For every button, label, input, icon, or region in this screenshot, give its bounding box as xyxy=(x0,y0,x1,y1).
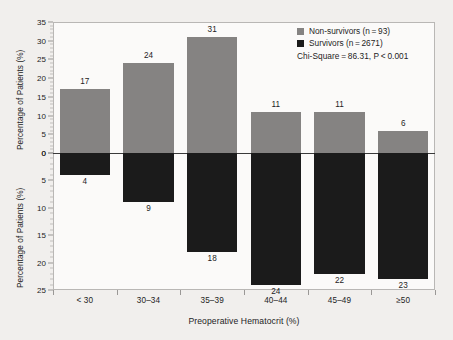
y-tick-minor xyxy=(50,145,53,146)
y-tick-minor xyxy=(50,111,53,112)
x-tick-label: 40–44 xyxy=(246,296,306,305)
chart-figure: Percentage of Patients (%) Percentage of… xyxy=(0,0,453,340)
legend-label-non-survivors: Non-survivors (n = 93) xyxy=(309,26,390,36)
bar-non-survivors[interactable] xyxy=(378,131,428,153)
y-tick-minor xyxy=(50,251,53,252)
y-tick-major xyxy=(48,115,53,116)
bar-non-survivors[interactable] xyxy=(314,112,364,153)
y-tick-minor xyxy=(50,70,53,71)
chi-square-annotation: Chi-Square = 86.31, P < 0.001 xyxy=(297,51,408,61)
y-tick-major xyxy=(48,22,53,23)
y-tick-label: 10 xyxy=(7,203,53,212)
y-tick-minor xyxy=(50,108,53,109)
y-tick-major xyxy=(48,262,53,263)
y-tick-minor xyxy=(50,169,53,170)
y-tick-minor xyxy=(50,93,53,94)
bar-survivors[interactable] xyxy=(251,153,301,285)
y-tick-minor xyxy=(50,191,53,192)
bar-survivors[interactable] xyxy=(378,153,428,279)
legend-item-survivors: Survivors (n = 2671) xyxy=(297,38,408,48)
y-tick-minor xyxy=(50,85,53,86)
y-tick-minor xyxy=(50,163,53,164)
x-tick-major xyxy=(180,290,181,295)
y-tick-minor xyxy=(50,29,53,30)
y-tick-minor xyxy=(50,185,53,186)
bar-survivors[interactable] xyxy=(314,153,364,274)
y-tick-major xyxy=(48,59,53,60)
y-tick-major xyxy=(48,40,53,41)
y-tick-major xyxy=(48,235,53,236)
y-tick-label: 10 xyxy=(7,111,53,120)
y-tick-minor xyxy=(50,33,53,34)
chart-legend: Non-survivors (n = 93) Survivors (n = 26… xyxy=(297,26,408,61)
y-tick-major xyxy=(48,96,53,97)
legend-swatch-survivors xyxy=(297,40,304,47)
y-tick-minor xyxy=(50,89,53,90)
y-tick-minor xyxy=(50,55,53,56)
y-tick-label: 15 xyxy=(7,231,53,240)
bar-value-label-non-survivors: 31 xyxy=(192,25,232,34)
y-tick-minor xyxy=(50,273,53,274)
y-tick-minor xyxy=(50,48,53,49)
x-tick-label: 45–49 xyxy=(310,296,370,305)
y-tick-minor xyxy=(50,158,53,159)
x-tick-major xyxy=(435,290,436,295)
legend-swatch-non-survivors xyxy=(297,28,304,35)
y-tick-label: 30 xyxy=(7,36,53,45)
bar-value-label-survivors: 4 xyxy=(65,177,105,186)
y-tick-minor xyxy=(50,126,53,127)
y-tick-label: 25 xyxy=(7,286,53,295)
y-tick-major xyxy=(48,207,53,208)
y-tick-minor xyxy=(50,74,53,75)
y-tick-minor xyxy=(50,104,53,105)
bar-value-label-non-survivors: 6 xyxy=(383,119,423,128)
bar-non-survivors[interactable] xyxy=(187,37,237,153)
y-tick-label: 35 xyxy=(7,18,53,27)
y-tick-minor xyxy=(50,123,53,124)
y-tick-minor xyxy=(50,268,53,269)
x-tick-major xyxy=(244,290,245,295)
y-axis-ticks: 051015202530350510152025 xyxy=(0,0,53,340)
bar-survivors[interactable] xyxy=(187,153,237,252)
bar-value-label-survivors: 24 xyxy=(256,287,296,296)
y-tick-minor xyxy=(50,36,53,37)
bar-survivors[interactable] xyxy=(123,153,173,202)
x-tick-label: < 30 xyxy=(55,296,115,305)
bar-value-label-survivors: 9 xyxy=(129,204,169,213)
bar-value-label-survivors: 23 xyxy=(383,281,423,290)
x-tick-major xyxy=(53,290,54,295)
y-tick-minor xyxy=(50,196,53,197)
y-tick-major xyxy=(48,180,53,181)
bar-non-survivors[interactable] xyxy=(251,112,301,153)
bar-non-survivors[interactable] xyxy=(60,89,110,153)
y-tick-label: 5 xyxy=(7,130,53,139)
x-tick-major xyxy=(117,290,118,295)
y-tick-minor xyxy=(50,246,53,247)
x-tick-label: 30–34 xyxy=(119,296,179,305)
x-tick-major xyxy=(371,290,372,295)
x-tick-major xyxy=(308,290,309,295)
y-tick-minor xyxy=(50,224,53,225)
y-tick-label: 0 xyxy=(7,149,53,158)
y-tick-major xyxy=(48,78,53,79)
bar-non-survivors[interactable] xyxy=(123,63,173,153)
y-tick-minor xyxy=(50,240,53,241)
bar-value-label-non-survivors: 11 xyxy=(320,100,360,109)
legend-item-non-survivors: Non-survivors (n = 93) xyxy=(297,26,408,36)
y-tick-minor xyxy=(50,51,53,52)
y-tick-label: 15 xyxy=(7,92,53,101)
y-tick-label: 20 xyxy=(7,258,53,267)
legend-label-survivors: Survivors (n = 2671) xyxy=(309,38,383,48)
y-tick-label: 5 xyxy=(7,176,53,185)
bar-survivors[interactable] xyxy=(60,153,110,175)
y-tick-minor xyxy=(50,130,53,131)
y-tick-minor xyxy=(50,218,53,219)
y-tick-minor xyxy=(50,66,53,67)
y-tick-label: 25 xyxy=(7,55,53,64)
bar-value-label-survivors: 22 xyxy=(320,276,360,285)
y-tick-minor xyxy=(50,213,53,214)
y-tick-label: 20 xyxy=(7,74,53,83)
y-tick-minor xyxy=(50,279,53,280)
y-tick-major xyxy=(48,134,53,135)
bar-value-label-survivors: 18 xyxy=(192,254,232,263)
